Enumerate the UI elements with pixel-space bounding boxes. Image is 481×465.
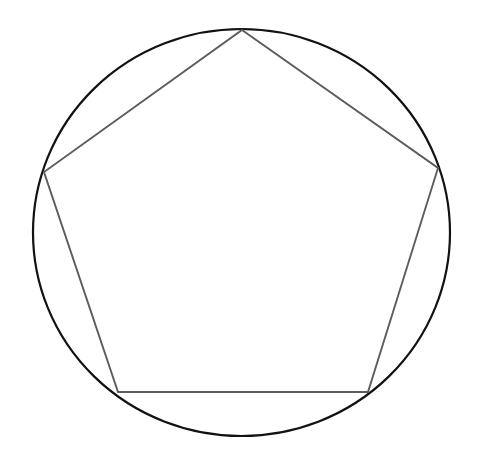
figure-root xyxy=(0,0,481,465)
geometry-canvas xyxy=(0,0,481,465)
figure-background xyxy=(0,0,481,465)
